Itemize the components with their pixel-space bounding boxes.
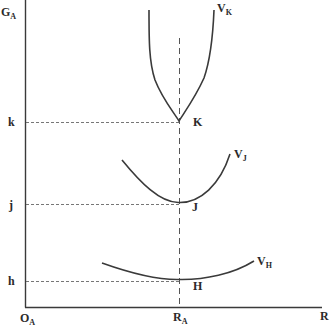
x-axis-label: R	[320, 309, 329, 323]
curve-vk	[149, 10, 214, 121]
diagram-canvas: GA VK VJ VH K J H k j h OA RA R	[0, 0, 331, 329]
ra-label: RA	[173, 310, 188, 326]
point-j-label: J	[192, 200, 198, 214]
curve-vj	[122, 154, 230, 203]
origin-label: OA	[20, 311, 35, 327]
axis-label-k: k	[8, 115, 15, 129]
point-h-label: H	[193, 279, 203, 293]
curve-vh-label: VH	[257, 254, 273, 270]
point-k-label: K	[193, 115, 203, 129]
y-axis-label: GA	[1, 5, 16, 21]
curve-vj-label: VJ	[234, 147, 247, 163]
axis-label-h: h	[8, 274, 15, 288]
axis-label-j: j	[8, 198, 13, 212]
curve-vh	[102, 261, 254, 280]
curve-vk-label: VK	[217, 1, 233, 17]
